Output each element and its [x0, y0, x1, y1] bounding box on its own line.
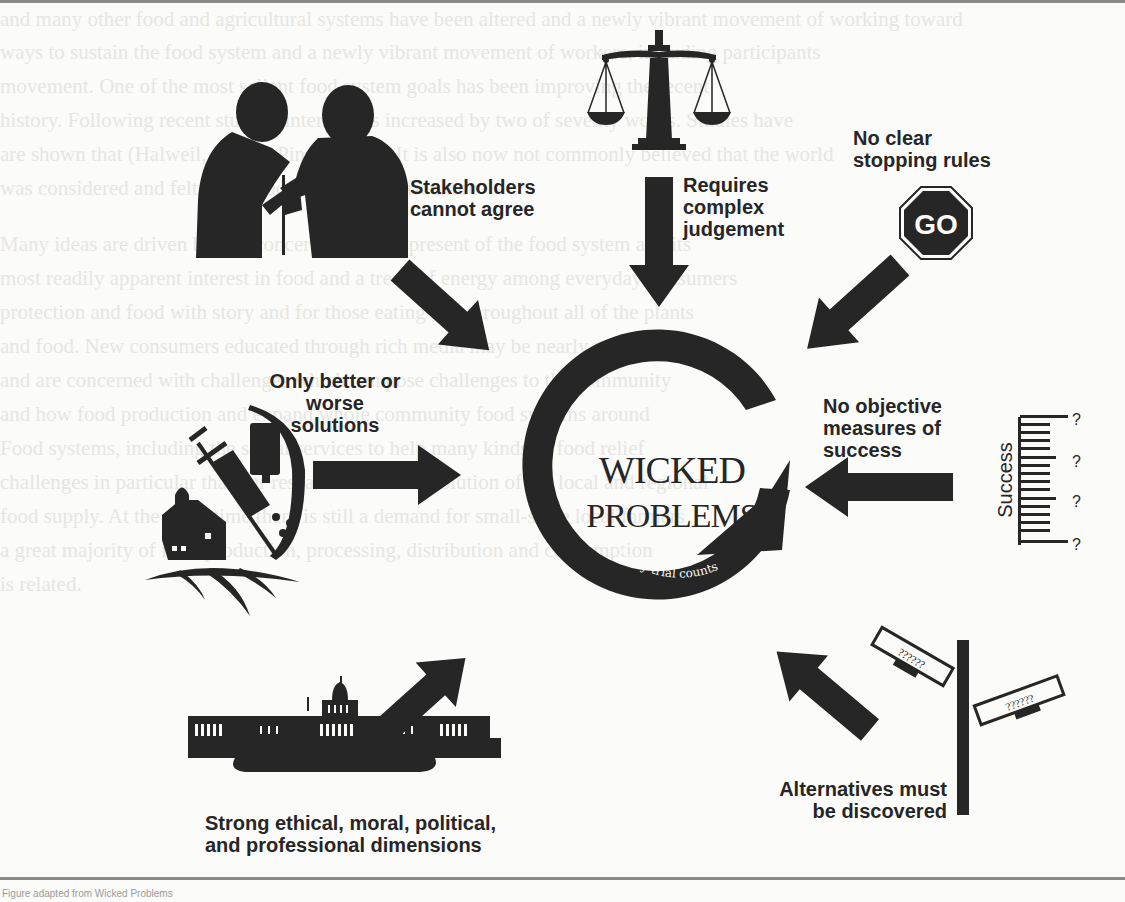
- label-stopping-rules: No clear stopping rules: [853, 127, 991, 171]
- center-title-line1: Wicked: [599, 449, 745, 491]
- figure-credit: Figure adapted from Wicked Problems: [2, 888, 173, 899]
- label-line: success: [823, 439, 942, 461]
- go-sign-text: GO: [914, 209, 958, 240]
- arrow-from-judgement: [629, 177, 689, 307]
- farm-syringe-vaccine-icon: [145, 405, 305, 616]
- success-ruler-icon: Success ? ? ? ?: [994, 411, 1081, 553]
- label-measures: No objective measures of success: [823, 395, 942, 461]
- label-line: Only better or: [255, 370, 415, 392]
- label-line: worse: [255, 392, 415, 414]
- label-line: No objective: [823, 395, 942, 417]
- label-line: stopping rules: [853, 149, 991, 171]
- label-stakeholders: Stakeholders cannot agree: [410, 176, 536, 220]
- ruler-mark: ?: [1072, 411, 1081, 428]
- label-line: Alternatives must: [725, 778, 947, 800]
- label-line: Stakeholders: [410, 176, 536, 198]
- label-line: and professional dimensions: [205, 834, 496, 856]
- scales-of-justice-icon: [587, 30, 731, 150]
- iteration-cycle-ring: Iteration Every trial counts Wicked Prob…: [522, 330, 790, 600]
- ruler-label: Success: [994, 442, 1016, 518]
- label-line: cannot agree: [410, 198, 536, 220]
- label-line: Requires: [683, 174, 784, 196]
- label-line: No clear: [853, 127, 991, 149]
- go-sign-octagon-icon: GO: [900, 187, 972, 259]
- label-line: measures of: [823, 417, 942, 439]
- arrow-from-stakeholders: [380, 248, 509, 373]
- label-line: Strong ethical, moral, political,: [205, 812, 496, 834]
- label-line: be discovered: [725, 800, 947, 822]
- center-title-line2: Problems: [586, 497, 758, 534]
- label-line: solutions: [255, 414, 415, 436]
- arrow-from-solutions: [313, 445, 461, 505]
- label-solutions: Only better or worse solutions: [255, 370, 415, 436]
- ruler-mark: ?: [1072, 453, 1081, 470]
- ring-top-text: Iteration: [645, 388, 704, 406]
- label-dimensions: Strong ethical, moral, political, and pr…: [205, 812, 496, 856]
- arrow-from-alternatives: [757, 629, 889, 753]
- arguing-people-silhouette-icon: [196, 82, 408, 258]
- label-line: complex: [683, 196, 784, 218]
- label-judgement: Requires complex judgement: [683, 174, 784, 240]
- arrow-from-stopping-rules: [787, 243, 920, 371]
- label-line: judgement: [683, 218, 784, 240]
- ruler-mark: ?: [1072, 536, 1081, 553]
- label-alternatives: Alternatives must be discovered: [725, 778, 947, 822]
- ruler-mark: ?: [1072, 493, 1081, 510]
- arrow-from-measures: [805, 457, 953, 517]
